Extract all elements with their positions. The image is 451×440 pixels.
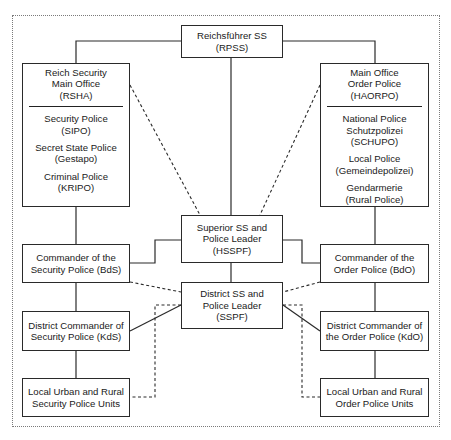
bdo-line-1: Commander of the (335, 252, 414, 263)
dash-bdo-sspf (283, 282, 320, 292)
bds-line-2: Security Police (BdS) (31, 264, 122, 275)
rpss-title: Reichsführer SS (197, 30, 267, 41)
dash-bds-sspf (130, 282, 181, 292)
kdo-line-2: the Order Police (KdO) (326, 331, 424, 342)
rsha-group-kripo: Criminal Police (KRIPO) (44, 171, 108, 194)
sspf-abbr: (SSPF) (216, 311, 247, 322)
local-order-line-1: Local Urban and Rural (327, 386, 423, 397)
local-police-abbr: (Gemeindepolizei) (336, 165, 414, 176)
box-bdo: Commander of the Order Police (BdO) (320, 244, 429, 283)
local-police-label: Local Police (336, 153, 414, 164)
box-local-order-units: Local Urban and Rural Order Police Units (320, 378, 429, 417)
local-security-line-2: Security Police Units (32, 398, 120, 409)
bds-line-1: Commander of the (36, 252, 115, 263)
bdo-line-2: Order Police (BdO) (334, 264, 416, 275)
gestapo-label: Secret State Police (35, 142, 117, 153)
line-rpss-rsha (76, 41, 181, 63)
gendarmerie-label: Gendarmerie (345, 182, 403, 193)
rsha-header-1: Reich Security (45, 67, 107, 78)
kripo-abbr: (KRIPO) (44, 182, 108, 193)
haorpo-header-1: Main Office (350, 67, 398, 78)
schupo-abbr: (SCHUPO) (343, 136, 407, 147)
gendarmerie-abbr: (Rural Police) (345, 194, 403, 205)
line-hsspf-bdo (283, 240, 320, 263)
haorpo-group-gendarmerie: Gendarmerie (Rural Police) (345, 182, 403, 205)
sipo-abbr: (SIPO) (44, 125, 107, 136)
sspf-line-2: Police Leader (203, 300, 262, 311)
haorpo-group-local: Local Police (Gemeindepolizei) (336, 153, 414, 176)
rsha-group-gestapo: Secret State Police (Gestapo) (35, 142, 117, 165)
dash-rsha-hsspf (130, 85, 200, 215)
dash-sspf-local-security (130, 305, 181, 397)
box-hsspf: Superior SS and Police Leader (HSSPF) (181, 215, 283, 263)
dash-haorpo-hsspf (260, 85, 320, 215)
local-order-line-2: Order Police Units (336, 398, 414, 409)
haorpo-header-3: (HAORPO) (351, 90, 399, 101)
rsha-header-2: Main Office (52, 78, 100, 89)
schupo-label-2: Schutzpolizei (343, 125, 407, 136)
box-haorpo: Main Office Order Police (HAORPO) Nation… (320, 63, 429, 207)
hsspf-abbr: (HSSPF) (213, 245, 251, 256)
box-rpss: Reichsführer SS (RPSS) (181, 25, 283, 58)
box-rsha: Reich Security Main Office (RSHA) Securi… (22, 63, 130, 207)
line-hsspf-bds (130, 240, 181, 263)
haorpo-header-2: Order Police (348, 78, 401, 89)
line-rpss-haorpo (283, 41, 375, 63)
box-sspf: District SS and Police Leader (SSPF) (181, 282, 283, 329)
rsha-header-3: (RSHA) (59, 90, 92, 101)
box-kdo: District Commander of the Order Police (… (320, 311, 429, 351)
box-bds: Commander of the Security Police (BdS) (22, 244, 130, 283)
haorpo-divider (327, 106, 421, 107)
rpss-abbr: (RPSS) (216, 42, 249, 53)
box-kds: District Commander of Security Police (K… (22, 311, 130, 351)
hsspf-line-1: Superior SS and (197, 222, 267, 233)
kds-line-2: Security Police (KdS) (31, 331, 122, 342)
sspf-line-1: District SS and (200, 288, 263, 299)
kripo-label: Criminal Police (44, 171, 108, 182)
rsha-group-sipo: Security Police (SIPO) (44, 113, 107, 136)
schupo-label-1: National Police (343, 113, 407, 124)
hsspf-line-2: Police Leader (203, 233, 262, 244)
dash-sspf-local-order (283, 305, 320, 397)
kdo-line-1: District Commander of (327, 320, 422, 331)
box-local-security-units: Local Urban and Rural Security Police Un… (22, 378, 130, 417)
haorpo-group-schupo: National Police Schutzpolizei (SCHUPO) (343, 113, 407, 147)
kds-line-1: District Commander of (28, 320, 123, 331)
sipo-label: Security Police (44, 113, 107, 124)
rsha-divider (29, 106, 122, 107)
gestapo-abbr: (Gestapo) (35, 153, 117, 164)
local-security-line-1: Local Urban and Rural (28, 386, 124, 397)
